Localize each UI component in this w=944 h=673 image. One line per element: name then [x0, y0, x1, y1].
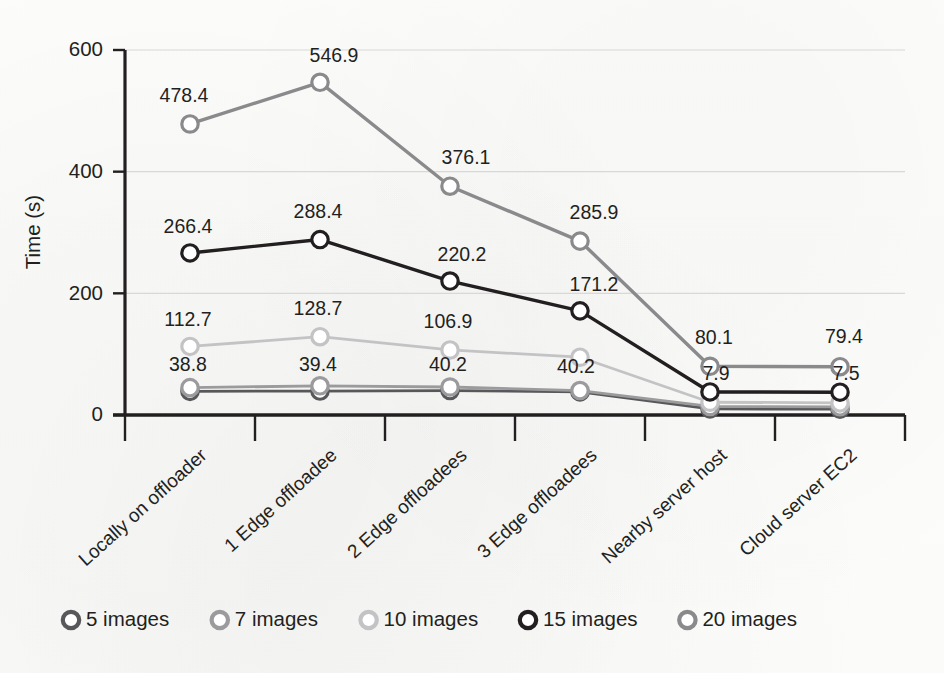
- x-axis-category-label: 1 Edge offloadee: [220, 444, 341, 556]
- data-point-value-label: 106.9: [424, 310, 473, 332]
- y-axis-group: 0200400600: [69, 37, 125, 425]
- data-point-value-label: 288.4: [294, 200, 343, 222]
- series-line-15-images: [190, 240, 840, 393]
- y-axis-tick-label: 200: [69, 281, 103, 304]
- data-point-value-label: 80.1: [695, 326, 733, 348]
- x-axis-category-label: Nearby server host: [597, 444, 731, 567]
- data-point-value-label: 376.1: [442, 146, 491, 168]
- data-point-value-label: 112.7: [164, 308, 211, 330]
- data-point-value-label: 40.2: [429, 353, 467, 375]
- category-labels-group: Locally on offloader1 Edge offloadee2 Ed…: [74, 444, 860, 570]
- y-axis-tick-label: 0: [92, 402, 103, 425]
- x-axis-category-label: 3 Edge offloadees: [473, 444, 601, 562]
- data-point-value-label: 546.9: [310, 44, 359, 66]
- data-point-value-label: 266.4: [164, 215, 213, 237]
- data-point-marker: [572, 382, 588, 398]
- data-point-marker: [182, 245, 198, 261]
- data-point-marker: [312, 378, 328, 394]
- legend-circle-outline-icon: [679, 612, 695, 628]
- series-group: [182, 74, 848, 417]
- y-axis-tick-label: 400: [69, 159, 103, 182]
- data-point-value-label: 7.9: [702, 362, 729, 384]
- data-point-value-label: 7.5: [832, 362, 859, 384]
- legend-item-label[interactable]: 5 images: [86, 607, 169, 630]
- legend-circle-outline-icon: [360, 612, 376, 628]
- data-point-value-label: 285.9: [570, 201, 619, 223]
- legend-circle-outline-icon: [212, 612, 228, 628]
- data-point-value-label: 171.2: [570, 273, 619, 295]
- y-axis-title: Time (s): [21, 195, 44, 269]
- x-axis-category-label: 2 Edge offloadees: [343, 444, 471, 562]
- legend-item-label[interactable]: 10 images: [384, 607, 479, 630]
- data-point-marker: [182, 379, 198, 395]
- data-point-value-label: 38.8: [169, 353, 207, 375]
- data-point-marker: [702, 384, 718, 400]
- data-point-marker: [182, 338, 198, 354]
- data-point-marker: [442, 379, 458, 395]
- line-chart-figure: 0200400600 Locally on offloader1 Edge of…: [0, 0, 944, 673]
- data-point-value-label: 39.4: [299, 353, 337, 375]
- data-point-marker: [572, 303, 588, 319]
- legend-circle-outline-icon: [520, 612, 536, 628]
- legend-item-label[interactable]: 20 images: [702, 607, 797, 630]
- legend-item-label[interactable]: 7 images: [235, 607, 318, 630]
- data-point-marker: [442, 178, 458, 194]
- data-point-value-label: 128.7: [294, 297, 343, 319]
- data-point-value-label: 40.2: [557, 355, 595, 377]
- gridlines-group: [125, 50, 905, 293]
- chart-canvas: 0200400600 Locally on offloader1 Edge of…: [0, 0, 944, 673]
- y-axis-tick-label: 600: [69, 37, 103, 60]
- data-point-marker: [312, 74, 328, 90]
- x-axis-group: [113, 415, 905, 441]
- x-axis-category-label: Cloud server EC2: [735, 444, 860, 560]
- point-labels-group: 38.839.440.240.2112.7128.7106.9266.4288.…: [160, 44, 864, 384]
- x-axis-category-label: Locally on offloader: [74, 444, 211, 570]
- data-point-marker: [182, 116, 198, 132]
- data-point-marker: [442, 273, 458, 289]
- series-line-20-images: [190, 82, 840, 366]
- data-point-marker: [572, 233, 588, 249]
- chart-legend: 5 images7 images10 images15 images20 ima…: [63, 607, 797, 630]
- data-point-marker: [312, 231, 328, 247]
- data-point-marker: [312, 329, 328, 345]
- data-point-value-label: 478.4: [160, 84, 209, 106]
- data-point-value-label: 220.2: [438, 243, 487, 265]
- data-point-marker: [832, 384, 848, 400]
- data-point-value-label: 79.4: [825, 325, 863, 347]
- legend-item-label[interactable]: 15 images: [543, 607, 638, 630]
- legend-circle-outline-icon: [63, 612, 79, 628]
